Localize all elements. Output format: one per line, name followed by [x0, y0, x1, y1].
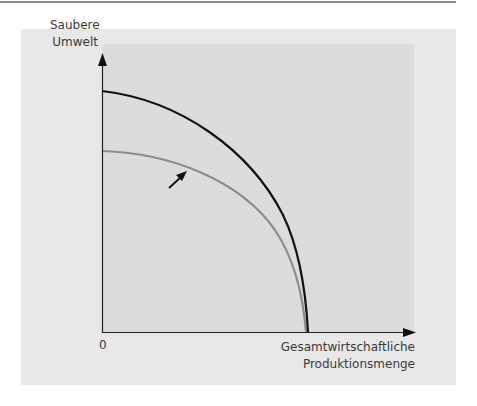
x-axis-arrowhead-icon — [403, 328, 416, 337]
x-axis-label: Gesamtwirtschaftliche Produktionsmenge — [280, 339, 415, 373]
x-axis-label-line1: Gesamtwirtschaftliche — [280, 339, 415, 356]
shift-arrow-shaft — [169, 177, 181, 188]
x-axis-label-line2: Produktionsmenge — [280, 356, 415, 373]
origin-label: 0 — [99, 337, 107, 354]
y-axis-arrowhead-icon — [98, 53, 107, 66]
y-axis-label: Saubere Umwelt — [50, 17, 98, 51]
y-axis-label-line2: Umwelt — [50, 34, 98, 51]
original-frontier-curve — [102, 151, 306, 332]
y-axis-label-line1: Saubere — [50, 17, 98, 34]
shifted-frontier-curve — [102, 91, 308, 332]
